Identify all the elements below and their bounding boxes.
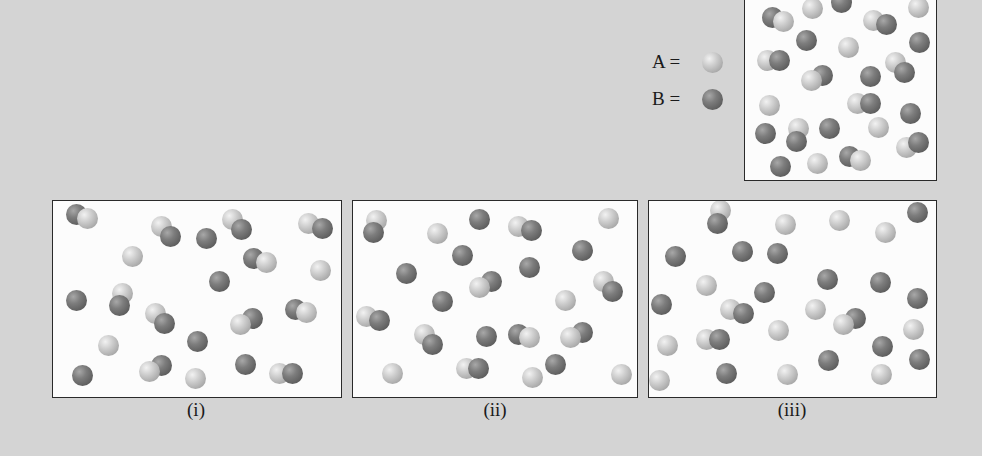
particle-b-icon — [876, 14, 897, 35]
particle-b-icon — [476, 326, 497, 347]
particle-b-icon — [872, 336, 893, 357]
particle-a-icon — [871, 364, 892, 385]
particle-b-icon — [572, 240, 593, 261]
particle-a-icon — [598, 208, 619, 229]
particle-b-icon — [231, 219, 252, 240]
particle-a-icon — [802, 0, 823, 19]
particle-b-icon — [860, 66, 881, 87]
particle-a-icon — [555, 290, 576, 311]
particle-b-icon — [469, 209, 490, 230]
particle-a-icon — [185, 368, 206, 389]
legend-b-label: B = — [652, 88, 702, 110]
particle-b-icon — [160, 226, 181, 247]
particle-b-icon — [363, 222, 384, 243]
reference-mixture-box — [744, 0, 937, 181]
particle-b-icon — [521, 220, 542, 241]
particle-b-icon — [909, 349, 930, 370]
particle-a-icon — [903, 319, 924, 340]
panel-iii-label: (iii) — [778, 399, 807, 421]
particle-b-icon — [817, 269, 838, 290]
particle-a-icon — [805, 299, 826, 320]
particle-a-icon — [807, 153, 828, 174]
particle-a-icon — [759, 95, 780, 116]
legend-a-label: A = — [652, 51, 702, 73]
particle-b-icon — [819, 118, 840, 139]
particle-a-icon — [139, 361, 160, 382]
particle-b-icon — [651, 294, 672, 315]
particle-b-icon — [786, 131, 807, 152]
particle-b-icon — [894, 62, 915, 83]
particle-b-icon — [109, 295, 130, 316]
panel-i-label: (i) — [187, 399, 205, 421]
particle-b-icon — [767, 243, 788, 264]
panel-ii-box — [352, 200, 638, 398]
particle-a-icon — [768, 320, 789, 341]
particle-b-icon — [545, 354, 566, 375]
particle-b-icon — [665, 246, 686, 267]
particle-b-icon — [716, 363, 737, 384]
particle-b-icon — [468, 358, 489, 379]
particle-a-icon — [77, 208, 98, 229]
particle-b-icon — [66, 290, 87, 311]
particle-a-icon — [801, 70, 822, 91]
particle-b-icon — [754, 282, 775, 303]
particle-a-icon — [519, 327, 540, 348]
particle-a-icon — [649, 370, 670, 391]
particle-b-icon — [707, 213, 728, 234]
particle-b-icon — [908, 132, 929, 153]
panel-iii-box — [648, 200, 937, 398]
particle-b-icon — [396, 263, 417, 284]
particle-a-icon — [122, 246, 143, 267]
particle-b-icon — [818, 350, 839, 371]
particle-b-icon — [831, 0, 852, 13]
particle-b-icon — [154, 313, 175, 334]
particle-b-icon — [900, 103, 921, 124]
particle-a-icon — [850, 150, 871, 171]
legend-b: B = — [652, 88, 723, 110]
particle-a-icon — [773, 11, 794, 32]
particle-b-icon — [770, 156, 791, 177]
particle-b-icon — [196, 228, 217, 249]
particle-b-icon — [369, 310, 390, 331]
particle-b-icon — [755, 123, 776, 144]
particle-a-icon — [838, 37, 859, 58]
particle-b-icon — [870, 272, 891, 293]
particle-a-icon — [829, 210, 850, 231]
particle-b-icon — [732, 241, 753, 262]
particle-a-icon — [382, 363, 403, 384]
particle-b-icon — [909, 32, 930, 53]
particle-a-icon — [310, 260, 331, 281]
particle-a-icon — [256, 252, 277, 273]
particle-b-icon — [702, 89, 723, 110]
particle-a-icon — [702, 52, 723, 73]
particle-a-icon — [777, 364, 798, 385]
panel-ii-label: (ii) — [483, 399, 506, 421]
particle-b-icon — [907, 288, 928, 309]
particle-a-icon — [296, 302, 317, 323]
particle-a-icon — [696, 275, 717, 296]
particle-a-icon — [522, 367, 543, 388]
particle-b-icon — [733, 303, 754, 324]
particle-b-icon — [452, 245, 473, 266]
particle-b-icon — [72, 365, 93, 386]
particle-a-icon — [427, 223, 448, 244]
particle-a-icon — [611, 364, 632, 385]
panel-i-box — [52, 200, 342, 398]
particle-b-icon — [602, 281, 623, 302]
particle-a-icon — [98, 335, 119, 356]
particle-a-icon — [833, 314, 854, 335]
legend-a: A = — [652, 51, 723, 73]
particle-a-icon — [230, 314, 251, 335]
particle-b-icon — [860, 93, 881, 114]
particle-b-icon — [312, 218, 333, 239]
particle-b-icon — [187, 331, 208, 352]
particle-b-icon — [907, 202, 928, 223]
particle-b-icon — [282, 363, 303, 384]
particle-a-icon — [560, 327, 581, 348]
particle-b-icon — [519, 257, 540, 278]
particle-a-icon — [469, 277, 490, 298]
particle-b-icon — [235, 354, 256, 375]
particle-a-icon — [775, 214, 796, 235]
particle-b-icon — [796, 30, 817, 51]
particle-b-icon — [209, 271, 230, 292]
